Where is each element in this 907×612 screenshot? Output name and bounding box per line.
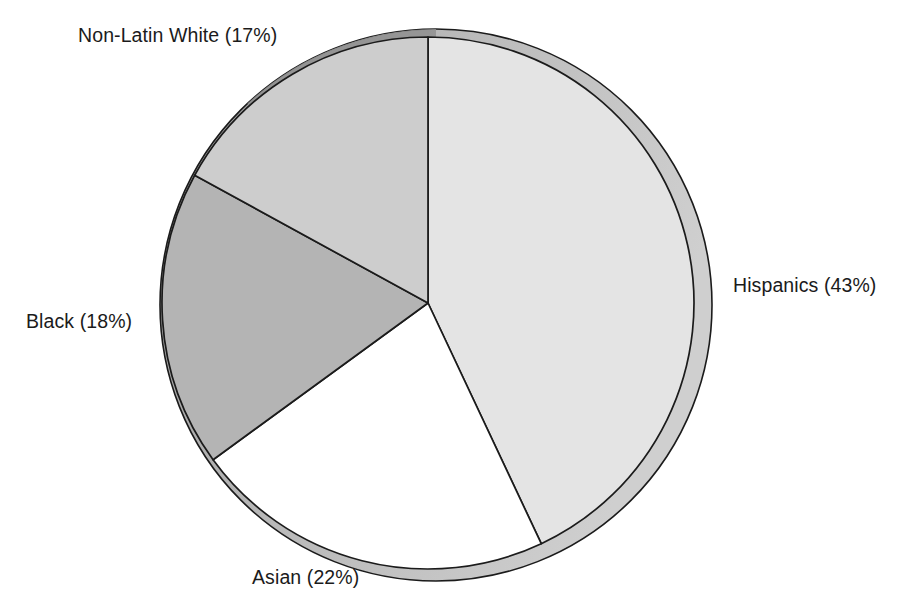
pie-label-hispanics: Hispanics (43%)	[733, 276, 876, 296]
pie-label-non-latin-white: Non-Latin White (17%)	[78, 26, 277, 46]
pie-chart-canvas	[0, 0, 907, 612]
pie-label-black: Black (18%)	[26, 312, 132, 332]
pie-slices	[162, 37, 694, 569]
pie-chart-figure: Non-Latin White (17%) Hispanics (43%) Bl…	[0, 0, 907, 612]
pie-label-asian: Asian (22%)	[252, 568, 359, 588]
